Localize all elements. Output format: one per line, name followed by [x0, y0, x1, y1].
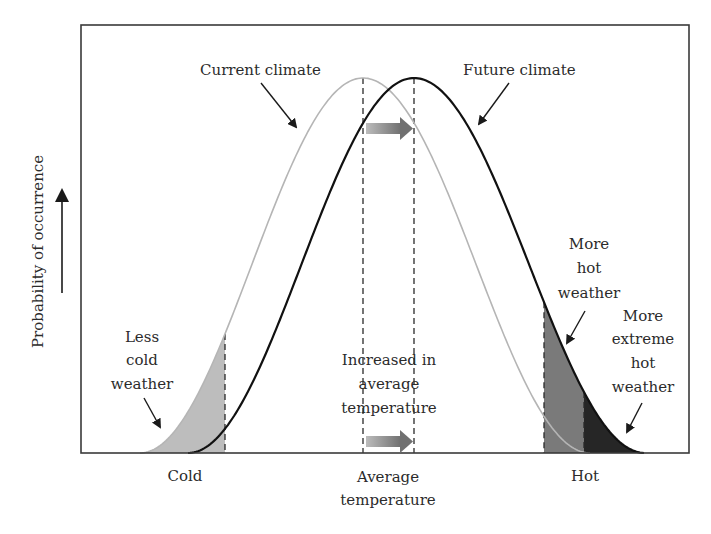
shift-arrow-bottom [366, 430, 413, 453]
svg-text:weather: weather [111, 375, 174, 393]
current-climate-pointer-arrow [261, 83, 296, 127]
more-extreme-pointer-arrow [627, 403, 642, 432]
svg-text:More: More [569, 235, 610, 253]
less-cold-pointer-arrow [144, 398, 160, 427]
more-hot-weather-label: More hot weather [558, 235, 621, 302]
svg-text:hot: hot [577, 259, 602, 277]
svg-text:Average: Average [356, 468, 419, 486]
y-axis-label: Probability of occurrence [29, 155, 47, 348]
y-axis-up-arrow-icon [55, 188, 69, 293]
shift-arrow-top [366, 117, 413, 140]
svg-text:cold: cold [126, 351, 158, 369]
svg-text:average: average [359, 375, 420, 393]
increase-average-temperature-label: Increased in average temperature [341, 351, 437, 417]
future-climate-pointer-arrow [479, 83, 509, 124]
svg-text:temperature: temperature [340, 491, 436, 509]
svg-text:temperature: temperature [341, 399, 437, 417]
less-cold-weather-label: Less cold weather [111, 328, 174, 393]
svg-text:More: More [623, 307, 664, 325]
svg-text:hot: hot [631, 354, 656, 372]
svg-text:Less: Less [125, 328, 159, 346]
svg-text:weather: weather [612, 378, 675, 396]
current-climate-label: Current climate [200, 61, 321, 79]
future-climate-label: Future climate [463, 61, 576, 79]
climate-shift-diagram: Probability of occurrence Current climat… [0, 0, 711, 534]
x-label-average-temperature: Average temperature [340, 468, 436, 509]
svg-text:weather: weather [558, 284, 621, 302]
more-hot-pointer-arrow [567, 311, 585, 343]
svg-text:extreme: extreme [612, 330, 675, 348]
x-label-hot: Hot [571, 467, 599, 485]
more-extreme-hot-weather-region [584, 392, 645, 453]
more-extreme-hot-weather-label: More extreme hot weather [612, 307, 675, 396]
x-label-cold: Cold [168, 467, 203, 485]
svg-text:Increased in: Increased in [342, 351, 437, 369]
